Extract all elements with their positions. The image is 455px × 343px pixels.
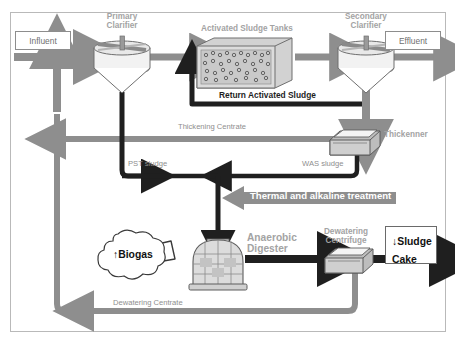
thickener-label: Thickenner <box>384 130 436 139</box>
biogas-label: ↑Biogas <box>113 249 153 261</box>
dewatering-centrifuge-label: Dewatering Centrifuge <box>315 227 377 245</box>
sludge-cake-box: ↓Sludge Cake <box>385 226 437 264</box>
anaerobic-digester-label: Anaerobic Digester <box>247 232 311 255</box>
process-diagram: Influent Effluent ↓Sludge Cake Primary C… <box>0 0 455 343</box>
activated-sludge-tanks-label: Activated Sludge Tanks <box>199 24 295 33</box>
dewatering-centrifuge-icon <box>325 248 373 273</box>
secondary-clarifier-label: Secondary Clarifier <box>340 12 392 30</box>
influent-box: Influent <box>15 31 71 50</box>
primary-clarifier-label: Primary Clarifier <box>96 12 148 30</box>
anaerobic-digester-icon <box>189 239 247 290</box>
thickener-icon <box>330 130 380 155</box>
equipment-layer <box>0 0 455 343</box>
return-activated-sludge-label: Return Activated Sludge <box>219 91 316 100</box>
thickening-centrate-label: Thickening Centrate <box>178 123 246 132</box>
sludge-cake-label: ↓Sludge Cake <box>392 236 432 265</box>
influent-label: Influent <box>29 36 56 46</box>
thermal-alkaline-treatment-label: Thermal and alkaline treatment <box>250 191 391 202</box>
effluent-box: Effluent <box>385 31 441 50</box>
primary-clarifier-icon <box>94 36 150 93</box>
activated-sludge-tank-icon <box>197 38 292 88</box>
pst-sludge-label: PST sludge <box>128 160 167 169</box>
dewatering-centrate-label: Dewatering Centrate <box>113 299 183 308</box>
effluent-label: Effluent <box>399 36 427 46</box>
was-sludge-label: WAS sludge <box>302 160 344 169</box>
